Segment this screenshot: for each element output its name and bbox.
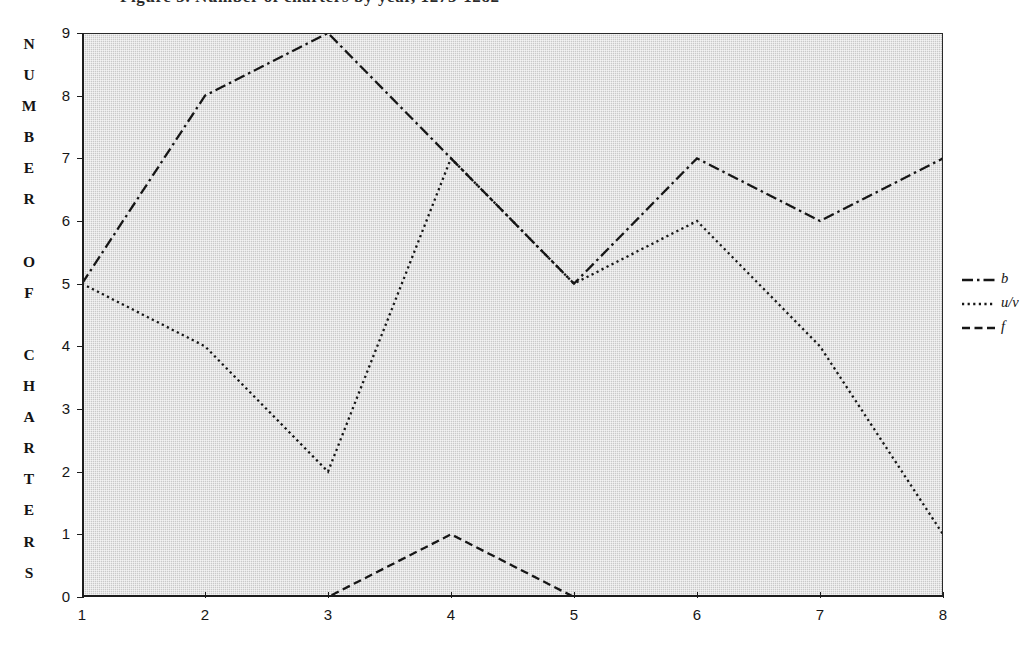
legend-item-uv: u/v [962, 290, 1032, 314]
y-axis-title-char: T [24, 464, 34, 495]
y-tick-mark [77, 33, 84, 34]
chart-figure: Figure 3. Number of charters by year, 12… [0, 0, 1032, 672]
legend-label: f [1001, 318, 1005, 335]
x-tick-mark [574, 592, 575, 598]
x-tick-mark [328, 592, 329, 598]
y-tick-mark [77, 221, 84, 222]
x-tick-mark [451, 592, 452, 598]
chart-legend: bu/vf [962, 266, 1032, 338]
series-line-f [82, 534, 943, 597]
legend-item-f: f [962, 314, 1032, 338]
y-tick-label: 9 [44, 25, 70, 40]
y-axis-title-char: R [23, 432, 34, 463]
x-tick-mark [82, 592, 83, 598]
y-tick-mark [77, 534, 84, 535]
x-tick-label: 3 [313, 607, 343, 622]
x-tick-label: 2 [190, 607, 220, 622]
legend-line-swatch [962, 296, 995, 308]
y-tick-label: 3 [44, 401, 70, 416]
legend-label: b [1001, 270, 1008, 287]
y-axis-title-char: F [24, 277, 33, 308]
x-tick-label: 7 [805, 607, 835, 622]
series-line-b [82, 33, 943, 283]
y-tick-mark [77, 96, 84, 97]
y-axis-title-char: H [23, 370, 35, 401]
y-axis-title-char: M [22, 90, 37, 121]
legend-line-swatch [962, 272, 995, 284]
y-axis-title-char: E [24, 495, 34, 526]
y-axis-title-char: B [24, 121, 34, 152]
y-axis-title-char: R [23, 526, 34, 557]
x-tick-label: 4 [436, 607, 466, 622]
legend-item-b: b [962, 266, 1032, 290]
x-tick-label: 6 [682, 607, 712, 622]
y-axis-title-char: S [25, 557, 34, 588]
x-tick-mark [205, 592, 206, 598]
x-tick-mark [820, 592, 821, 598]
y-tick-label: 8 [44, 88, 70, 103]
y-tick-mark [77, 284, 84, 285]
x-tick-label: 8 [928, 607, 958, 622]
y-tick-mark [77, 472, 84, 473]
x-tick-label: 5 [559, 607, 589, 622]
y-axis-title-char: E [24, 152, 34, 183]
x-tick-mark [943, 592, 944, 598]
y-axis-title-char: N [23, 28, 34, 59]
plot-svg [82, 33, 943, 597]
y-tick-label: 0 [44, 589, 70, 604]
y-axis-title-char: U [23, 59, 34, 90]
y-tick-label: 1 [44, 526, 70, 541]
y-axis-title-char: C [23, 339, 34, 370]
y-axis-title-char: A [23, 401, 34, 432]
y-tick-mark [77, 158, 84, 159]
y-tick-mark [77, 409, 84, 410]
y-tick-label: 6 [44, 213, 70, 228]
figure-title: Figure 3. Number of charters by year, 12… [120, 0, 500, 7]
y-axis-title: NUMBEROFCHARTERS [16, 28, 42, 588]
series-line-uv [82, 158, 943, 534]
clipped-title-strip: Figure 3. Number of charters by year, 12… [0, 0, 1032, 14]
y-tick-label: 7 [44, 150, 70, 165]
y-axis-title-char: O [23, 246, 35, 277]
legend-label: u/v [1001, 294, 1019, 311]
y-tick-label: 2 [44, 464, 70, 479]
y-tick-label: 4 [44, 338, 70, 353]
x-tick-label: 1 [67, 607, 97, 622]
legend-line-swatch [962, 320, 995, 332]
y-tick-mark [77, 346, 84, 347]
plot-area [82, 33, 943, 597]
y-axis-title-char: R [23, 184, 34, 215]
x-tick-mark [697, 592, 698, 598]
y-tick-label: 5 [44, 276, 70, 291]
